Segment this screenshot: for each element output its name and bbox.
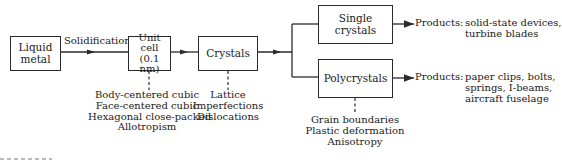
node-liquid-metal: Liquid metal	[10, 36, 61, 71]
poly-products: Products: paper clips, bolts, springs, I…	[415, 72, 555, 104]
polycrystals-label: Polycrystals	[324, 73, 388, 85]
crystals-to-branch-arrow	[258, 50, 292, 55]
single-crystals-label-1: Single	[335, 13, 376, 25]
unitcell-to-crystals-arrow	[170, 50, 198, 55]
annotation-line: Plastic deformation	[305, 126, 405, 137]
liquid-metal-label-2: metal	[19, 54, 53, 66]
crystals-label: Crystals	[206, 48, 250, 60]
solidification-arrow	[60, 50, 128, 55]
poly-products-prefix: Products:	[415, 72, 461, 104]
node-unit-cell: Unit cell (0.1 nm)	[128, 36, 171, 71]
product-line: turbine blades	[465, 29, 562, 40]
single-products-prefix: Products:	[415, 18, 461, 40]
solidification-label: Solidification	[64, 36, 131, 47]
node-crystals: Crystals	[198, 36, 258, 71]
unit-cell-label-2: cell	[129, 43, 170, 54]
annotation-line: Dislocations	[188, 112, 268, 123]
polycrystals-annotations: Grain boundaries Plastic deformation Ani…	[305, 115, 405, 147]
annotation-line: Anisotropy	[305, 137, 405, 148]
unit-cell-label-3: (0.1 nm)	[129, 54, 170, 75]
annotation-line: Allotropism	[88, 122, 206, 133]
single-products: Products: solid-state devices, turbine b…	[415, 18, 562, 40]
product-line: aircraft fuselage	[465, 94, 555, 105]
annotation-line: Imperfections	[188, 101, 268, 112]
crystals-annotations: Lattice Imperfections Dislocations	[188, 90, 268, 122]
liquid-metal-label-1: Liquid	[19, 42, 53, 54]
product-line: springs, I-beams,	[465, 83, 555, 94]
node-polycrystals: Polycrystals	[318, 59, 393, 98]
single-crystals-label-2: crystals	[335, 25, 376, 37]
branch-connector	[292, 24, 318, 77]
node-single-crystals: Single crystals	[318, 5, 393, 44]
